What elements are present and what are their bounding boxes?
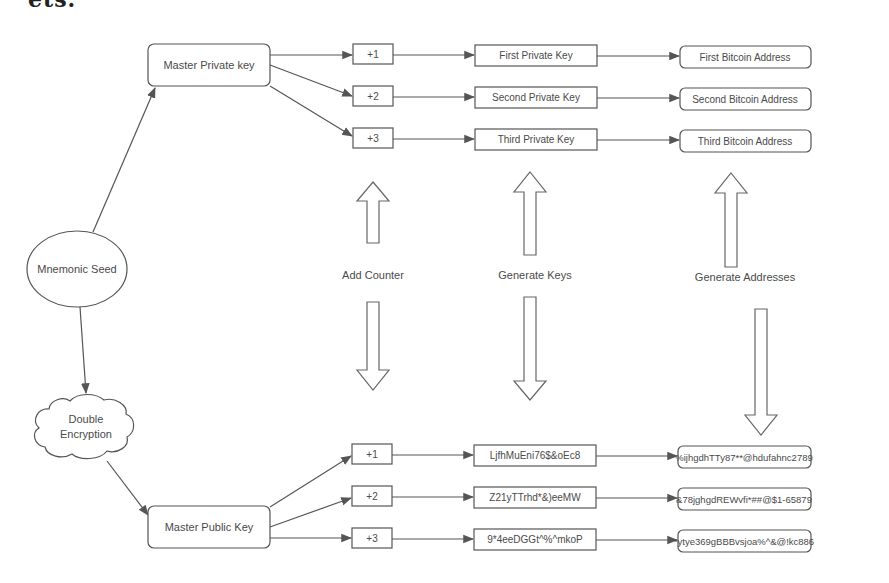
double-encryption-label-2: Encryption (60, 428, 112, 440)
arrow-mpub-to-counter-2 (270, 498, 351, 527)
double-encryption-node: Double Encryption (34, 395, 133, 459)
svg-text:First Private Key: First Private Key (499, 50, 572, 61)
svg-text:9*4eeDGGt^%^mkoP: 9*4eeDGGt^%^mkoP (487, 534, 583, 545)
svg-text:Z21yTTrhd*&)eeMW: Z21yTTrhd*&)eeMW (489, 492, 581, 503)
svg-text:Second Private Key: Second Private Key (492, 92, 580, 103)
step-label-add-counter: Add Counter (342, 269, 404, 281)
hollow-up-arrow-generate-keys (514, 172, 546, 255)
private-key-3: Third Private Key (475, 129, 597, 150)
svg-text:LjfhMuEni76$&oEc8: LjfhMuEni76$&oEc8 (490, 450, 581, 461)
arrow-seed-to-encryption (80, 307, 86, 393)
svg-text:+3: +3 (367, 133, 379, 144)
master-public-key-node: Master Public Key (148, 506, 270, 548)
public-counter-1: +1 (352, 444, 392, 464)
svg-text:First Bitcoin Address: First Bitcoin Address (699, 52, 790, 63)
arrow-mpk-to-counter-2 (270, 65, 352, 96)
hollow-down-arrow-generate-keys (514, 297, 546, 400)
hollow-up-arrow-generate-addresses (715, 173, 747, 267)
arrow-mpub-to-counter-1 (270, 456, 351, 507)
svg-text:+1: +1 (367, 49, 379, 60)
hollow-up-arrow-add-counter (357, 182, 389, 243)
public-key-2: Z21yTTrhd*&)eeMW (474, 487, 596, 508)
double-encryption-label-1: Double (69, 413, 104, 425)
private-counter-1: +1 (353, 44, 393, 64)
svg-text:*ytye369gBBBvsjoa%^&@!kc886: *ytye369gBBBvsjoa%^&@!kc886 (674, 536, 814, 547)
public-key-1: LjfhMuEni76$&oEc8 (474, 445, 596, 466)
bitcoin-address-1: First Bitcoin Address (680, 46, 811, 68)
public-counter-3: +3 (352, 528, 392, 548)
svg-text:%ijhgdhTTy87**@hdufahnc2789: %ijhgdhTTy87**@hdufahnc2789 (675, 452, 812, 463)
svg-text:Third Bitcoin Address: Third Bitcoin Address (698, 136, 793, 147)
master-private-key-label: Master Private key (163, 59, 255, 71)
private-counter-2: +2 (353, 86, 393, 106)
mnemonic-seed-label: Mnemonic Seed (37, 263, 117, 275)
mnemonic-seed-node: Mnemonic Seed (27, 231, 127, 307)
hollow-down-arrow-add-counter (357, 302, 389, 390)
public-address-2: &78jghgdREWvfi*##@$1-65879 (676, 488, 812, 510)
svg-text:+3: +3 (366, 533, 378, 544)
public-address-1: %ijhgdhTTy87**@hdufahnc2789 (675, 446, 812, 468)
master-private-key-node: Master Private key (148, 44, 270, 86)
hd-wallet-diagram: Mnemonic Seed Double Encryption Master P… (0, 0, 889, 583)
bitcoin-address-2: Second Bitcoin Address (680, 88, 811, 110)
arrow-seed-to-master-private (93, 88, 155, 232)
svg-text:+1: +1 (366, 449, 378, 460)
public-key-3: 9*4eeDGGt^%^mkoP (474, 529, 596, 550)
step-label-generate-addresses: Generate Addresses (695, 271, 796, 283)
svg-text:Second Bitcoin Address: Second Bitcoin Address (692, 94, 798, 105)
private-key-2: Second Private Key (475, 87, 597, 108)
master-public-key-label: Master Public Key (165, 521, 254, 533)
svg-text:+2: +2 (366, 491, 378, 502)
step-label-generate-keys: Generate Keys (498, 269, 572, 281)
public-address-3: *ytye369gBBBvsjoa%^&@!kc886 (674, 530, 814, 552)
hollow-down-arrow-generate-addresses (745, 309, 777, 435)
arrow-mpk-to-counter-3 (270, 86, 352, 136)
private-counter-3: +3 (353, 128, 393, 148)
svg-text:Third Private Key: Third Private Key (498, 134, 575, 145)
svg-text:&78jghgdREWvfi*##@$1-65879: &78jghgdREWvfi*##@$1-65879 (676, 494, 812, 505)
bitcoin-address-3: Third Bitcoin Address (680, 130, 811, 152)
public-counter-2: +2 (352, 486, 392, 506)
private-key-1: First Private Key (475, 45, 597, 66)
arrow-encryption-to-master-public (107, 461, 148, 515)
svg-text:+2: +2 (367, 91, 379, 102)
